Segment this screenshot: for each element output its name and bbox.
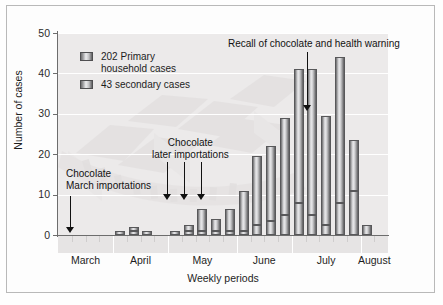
week-tick <box>86 236 87 242</box>
y-axis-title: Number of cases <box>12 55 24 165</box>
week-tick <box>209 236 210 242</box>
week-tick <box>278 236 279 242</box>
week-tick <box>251 236 252 242</box>
week-tick <box>182 236 183 242</box>
bar-jul-wk3 <box>321 116 331 235</box>
bar-segment-primary <box>362 225 372 235</box>
legend-swatch-secondary <box>80 80 93 89</box>
annotation-march-arrow <box>66 196 75 234</box>
chart-figure: Number of cases 50 40 30 20 10 0 <box>0 0 443 305</box>
y-tick-0: 0 <box>26 230 50 240</box>
month-separator <box>361 236 362 253</box>
bar-segment-primary <box>184 225 194 231</box>
month-separator <box>292 236 293 253</box>
bar-segment-primary <box>197 209 207 231</box>
annotation-later-arrow-1 <box>163 162 172 202</box>
week-tick <box>141 236 142 242</box>
bar-segment-primary <box>252 156 262 225</box>
y-tick-20: 20 <box>26 149 50 159</box>
month-label-may: May <box>192 254 212 266</box>
month-label-march: March <box>71 254 100 266</box>
gridline-50 <box>58 33 388 34</box>
bar-may-wk2 <box>184 225 194 235</box>
week-tick <box>99 236 100 242</box>
week-tick <box>319 236 320 242</box>
legend-label-primary-line2: household cases <box>101 63 176 74</box>
bar-segment-primary <box>211 219 221 231</box>
annotation-later-line2: later importations <box>152 149 229 160</box>
legend-swatch-primary <box>80 52 93 61</box>
annotation-recall-line1: Recall of chocolate and health warning <box>228 38 400 49</box>
legend-label-primary-line1: 202 Primary <box>101 51 155 62</box>
bar-may-wk4 <box>211 219 221 235</box>
bar-segment-primary <box>335 57 345 202</box>
month-label-april: April <box>130 254 151 266</box>
annotation-recall-arrow <box>303 52 312 112</box>
bar-may-wk3 <box>197 209 207 235</box>
week-tick <box>127 236 128 242</box>
annotation-later-line1: Chocolate <box>168 137 213 148</box>
legend-label-primary: 202 Primary household cases <box>101 51 176 74</box>
bar-segment-secondary <box>294 203 304 235</box>
bar-segment-primary <box>266 146 276 221</box>
bar-apr-wk2 <box>129 227 139 235</box>
week-tick <box>333 236 334 242</box>
bar-segment-secondary <box>349 191 359 235</box>
week-tick <box>264 236 265 242</box>
bar-segment-primary <box>239 191 249 231</box>
bar-segment-secondary <box>321 225 331 235</box>
week-tick <box>223 236 224 242</box>
bar-may-wk5 <box>225 209 235 235</box>
bar-segment-secondary <box>266 221 276 235</box>
y-tick-50: 50 <box>26 28 50 38</box>
annotation-later-arrow-2 <box>180 162 189 202</box>
bar-segment-primary <box>225 209 235 231</box>
annotation-march-line2: March importations <box>66 180 151 191</box>
week-tick <box>72 236 73 242</box>
bar-segment-primary <box>129 227 139 231</box>
bar-segment-secondary <box>252 225 262 235</box>
bar-segment-primary <box>349 140 359 191</box>
month-separator <box>168 236 169 253</box>
y-tick-10: 10 <box>26 189 50 199</box>
bar-jun-wk3 <box>266 146 276 235</box>
bar-segment-secondary <box>280 215 290 235</box>
bar-segment-primary <box>280 118 290 215</box>
week-tick <box>306 236 307 242</box>
annotation-later-importations: Chocolate later importations <box>152 137 229 160</box>
week-tick <box>154 236 155 242</box>
annotation-march-importations: Chocolate March importations <box>66 168 151 191</box>
annotation-recall: Recall of chocolate and health warning <box>228 38 400 50</box>
y-axis-line <box>57 31 58 237</box>
x-axis-title: Weekly periods <box>58 272 388 284</box>
month-label-august: August <box>358 254 391 266</box>
y-tick-30: 30 <box>26 108 50 118</box>
bar-segment-secondary <box>335 203 345 235</box>
bar-jun-wk2 <box>252 156 262 235</box>
bar-jul-wk5 <box>349 140 359 235</box>
bar-jun-wk4 <box>280 118 290 235</box>
legend-item-secondary: 43 secondary cases <box>80 79 190 91</box>
bar-jul-wk4 <box>335 57 345 235</box>
bar-segment-primary <box>321 116 331 225</box>
week-tick <box>347 236 348 242</box>
month-label-june: June <box>253 254 276 266</box>
y-tick-40: 40 <box>26 68 50 78</box>
legend-item-primary: 202 Primary household cases <box>80 51 190 74</box>
week-tick <box>374 236 375 242</box>
month-separator <box>237 236 238 253</box>
month-separator <box>113 236 114 253</box>
legend-label-secondary: 43 secondary cases <box>101 79 190 91</box>
annotation-later-arrow-3 <box>197 162 206 202</box>
chart-legend: 202 Primary household cases 43 secondary… <box>80 51 190 96</box>
month-label-july: July <box>317 254 336 266</box>
week-tick <box>196 236 197 242</box>
annotation-march-line1: Chocolate <box>66 168 111 179</box>
bar-jun-wk1 <box>239 191 249 235</box>
bar-aug-wk1 <box>362 225 372 235</box>
bar-segment-secondary <box>307 215 317 235</box>
